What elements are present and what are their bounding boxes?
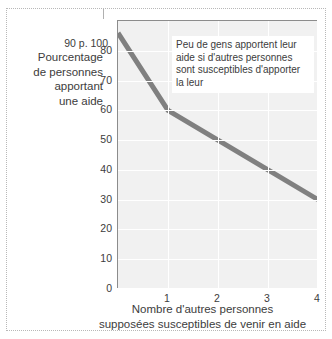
y-tick-label: 20 [84, 223, 112, 234]
y-tick-label: 30 [84, 194, 112, 205]
y-tick-label: 70 [84, 75, 112, 86]
y-tick-label: 60 [84, 104, 112, 115]
y-tick-label: 50 [84, 134, 112, 145]
y-tick-label: 10 [84, 253, 112, 264]
x-tick-label: 3 [258, 293, 276, 304]
y-tick-label: 40 [84, 164, 112, 175]
x-axis-label-line-1: Nombre d'autres personnes [80, 302, 325, 317]
x-axis-label-line-2: supposées susceptibles de venir en aide [80, 317, 325, 332]
x-axis-label: Nombre d'autres personnes supposées susc… [80, 302, 325, 331]
x-tick-label: 2 [208, 293, 226, 304]
x-tick-label: 1 [158, 293, 176, 304]
frame-tick-mark [103, 9, 104, 19]
gridline-vertical [168, 21, 169, 288]
y-tick-label: 80 [84, 45, 112, 56]
y-tick-label: 0 [84, 283, 112, 294]
annotation-callout: Peu de gens apportent leur aide si d'aut… [172, 36, 314, 93]
x-tick-label: 4 [308, 293, 326, 304]
